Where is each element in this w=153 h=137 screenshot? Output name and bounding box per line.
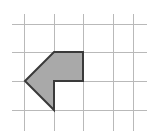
- figure-canvas: [0, 0, 153, 137]
- left-pointing-arrow-shape: [25, 52, 83, 110]
- figure-svg: [0, 0, 153, 137]
